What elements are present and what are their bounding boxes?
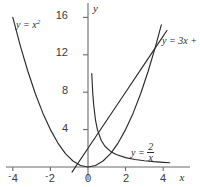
function-graph-figure: 16 12 8 4 -4 -2 0 2 4 x y y = x2 y = 3x … (0, 0, 200, 187)
parabola-label-text: y = x (16, 19, 37, 30)
line-curve-label: y = 3x + (162, 36, 197, 46)
y-tick-label-4: 4 (62, 123, 68, 134)
x-tick-label-0: 0 (85, 173, 91, 184)
parabola-curve-label: y = x2 (16, 20, 40, 30)
parabola-label-exponent: 2 (37, 18, 41, 26)
fraction-two-over-x: 2x (147, 142, 154, 163)
x-axis-label: x (180, 172, 185, 183)
x-tick-label-2: 2 (123, 173, 129, 184)
y-tick-label-12: 12 (56, 47, 68, 58)
y-axis-label: y (93, 3, 98, 14)
x-tick-label-minus-4: -4 (8, 173, 18, 184)
x-tick-label-minus-2: -2 (45, 173, 55, 184)
fraction-denominator: x (147, 152, 154, 163)
hyperbola-curve-label: y = 2x (131, 143, 154, 164)
y-axis-ticks (83, 17, 88, 129)
hyperbola-label-text: y = (131, 147, 145, 158)
y-tick-label-8: 8 (62, 85, 68, 96)
x-tick-label-4: 4 (160, 173, 166, 184)
y-tick-label-16: 16 (56, 10, 68, 21)
fraction-numerator: 2 (147, 142, 154, 152)
